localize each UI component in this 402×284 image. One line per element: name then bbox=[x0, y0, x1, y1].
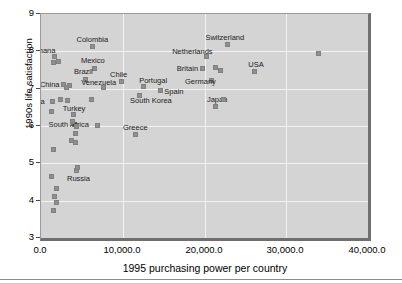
data-point bbox=[52, 194, 57, 199]
point-label: China bbox=[40, 81, 60, 89]
y-axis-label: 1990s life satisfaction bbox=[23, 4, 34, 164]
y-gridline bbox=[41, 89, 368, 90]
point-label: Brazil bbox=[74, 68, 93, 76]
x-tick-label: 20,000.0 bbox=[164, 244, 244, 255]
x-axis-label: 1995 purchasing power per country bbox=[40, 262, 370, 274]
y-tick-mark bbox=[36, 88, 40, 89]
data-point-spain bbox=[158, 88, 163, 93]
y-tick-mark bbox=[36, 50, 40, 51]
data-point bbox=[54, 186, 59, 191]
point-label: USA bbox=[248, 61, 263, 69]
point-label: Britain bbox=[177, 65, 198, 73]
y-tick-mark bbox=[36, 13, 40, 14]
data-point-chile bbox=[119, 79, 124, 84]
y-tick-mark bbox=[36, 237, 40, 238]
data-point bbox=[64, 85, 69, 90]
y-tick-mark bbox=[36, 162, 40, 163]
data-point bbox=[74, 124, 79, 129]
point-label: Russia bbox=[67, 175, 90, 183]
y-tick-label: 4 bbox=[10, 194, 34, 205]
y-tick-label: 3 bbox=[10, 231, 34, 242]
data-point-usa bbox=[252, 69, 257, 74]
data-point bbox=[73, 131, 78, 136]
data-point-colombia bbox=[90, 44, 95, 49]
data-point bbox=[65, 98, 70, 103]
data-point-japan bbox=[213, 104, 218, 109]
point-label: Portugal bbox=[139, 77, 167, 85]
x-gridline bbox=[368, 14, 369, 238]
scatter-plot-figure: ColombiaGhanaMexicoBrazilChileChinaVenez… bbox=[0, 0, 402, 284]
point-label: India bbox=[40, 98, 45, 106]
data-point bbox=[218, 68, 223, 73]
x-tick-label: 0.0 bbox=[0, 244, 80, 255]
point-label: Ghana bbox=[40, 47, 55, 55]
data-point-mexico bbox=[92, 66, 97, 71]
point-label: Switzerland bbox=[205, 34, 244, 42]
point-label: Germany bbox=[185, 78, 216, 86]
data-point bbox=[51, 208, 56, 213]
x-tick-label: 10,000.0 bbox=[82, 244, 162, 255]
data-point-switzerland bbox=[225, 42, 230, 47]
x-tick-label: 40,000.0 bbox=[327, 244, 402, 255]
data-point bbox=[95, 123, 100, 128]
footer-divider bbox=[0, 279, 402, 280]
point-label: South Korea bbox=[130, 97, 172, 105]
y-gridline bbox=[41, 126, 368, 127]
data-point bbox=[54, 200, 59, 205]
point-label: Mexico bbox=[81, 57, 105, 65]
data-point bbox=[221, 97, 226, 102]
data-point-greece bbox=[133, 132, 138, 137]
point-label: Venezuela bbox=[81, 79, 116, 87]
data-point bbox=[89, 97, 94, 102]
data-point bbox=[58, 97, 63, 102]
plot-area: ColombiaGhanaMexicoBrazilChileChinaVenez… bbox=[40, 13, 371, 241]
y-gridline bbox=[41, 163, 368, 164]
y-gridline bbox=[41, 201, 368, 202]
point-label: Netherlands bbox=[172, 48, 212, 56]
point-label: Greece bbox=[123, 124, 148, 132]
data-point bbox=[51, 60, 56, 65]
y-tick-mark bbox=[36, 125, 40, 126]
point-label: Colombia bbox=[77, 36, 109, 44]
data-point-britain bbox=[200, 66, 205, 71]
data-point bbox=[49, 109, 54, 114]
data-point-portugal bbox=[141, 84, 146, 89]
data-point-india bbox=[50, 99, 55, 104]
data-point bbox=[75, 165, 80, 170]
data-point bbox=[73, 140, 78, 145]
data-point bbox=[49, 174, 54, 179]
point-label: Turkey bbox=[63, 105, 86, 113]
data-point bbox=[316, 51, 321, 56]
data-point bbox=[51, 147, 56, 152]
x-tick-label: 30,000.0 bbox=[245, 244, 325, 255]
y-tick-mark bbox=[36, 200, 40, 201]
data-point-turkey bbox=[71, 112, 76, 117]
data-point bbox=[56, 59, 61, 64]
point-label: Spain bbox=[164, 88, 183, 96]
